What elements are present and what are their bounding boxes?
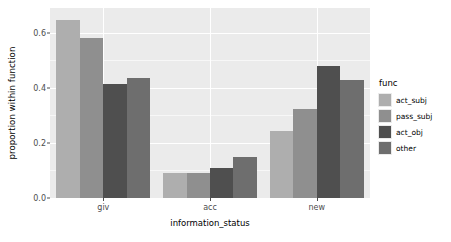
- x-tick-label-acc: acc: [203, 203, 217, 212]
- legend-title: func: [378, 78, 448, 88]
- bar-acc-pass_subj: [187, 173, 210, 198]
- legend: func act_subjpass_subjact_objother: [378, 78, 448, 156]
- legend-swatch-other: [378, 141, 392, 155]
- legend-item-other: other: [378, 140, 448, 156]
- legend-swatch-pass_subj: [378, 109, 392, 123]
- x-tick-mark: [210, 198, 211, 201]
- bar-giv-act_subj: [56, 20, 79, 198]
- legend-item-pass_subj: pass_subj: [378, 108, 448, 124]
- legend-swatch-act_subj: [378, 93, 392, 107]
- y-tick-label: 0.2: [33, 138, 46, 147]
- bar-new-act_obj: [317, 66, 340, 198]
- x-tick-mark: [103, 198, 104, 201]
- legend-swatch-act_obj: [378, 125, 392, 139]
- bar-giv-other: [127, 78, 150, 198]
- x-axis-ticks: givaccnew: [50, 198, 370, 218]
- x-axis-title: information_status: [50, 218, 370, 228]
- bar-acc-act_obj: [210, 168, 233, 198]
- legend-label-other: other: [396, 144, 416, 153]
- bar-new-act_subj: [270, 131, 293, 198]
- bar-giv-pass_subj: [80, 38, 103, 198]
- legend-label-pass_subj: pass_subj: [396, 112, 432, 121]
- bar-acc-other: [233, 157, 256, 198]
- y-tick-label: 0.4: [33, 83, 46, 92]
- y-tick-label: 0.0: [33, 194, 46, 203]
- legend-label-act_obj: act_obj: [396, 128, 423, 137]
- bar-new-other: [340, 80, 363, 198]
- bar-chart: proportion within function 0.00.20.40.6 …: [0, 0, 451, 242]
- bar-new-pass_subj: [293, 109, 316, 198]
- legend-label-act_subj: act_subj: [396, 96, 427, 105]
- x-tick-label-new: new: [308, 203, 325, 212]
- x-tick-label-giv: giv: [97, 203, 109, 212]
- bar-giv-act_obj: [103, 84, 126, 198]
- plot-panel: [50, 8, 370, 198]
- y-tick-label: 0.6: [33, 28, 46, 37]
- legend-item-act_obj: act_obj: [378, 124, 448, 140]
- bar-acc-act_subj: [163, 173, 186, 198]
- x-tick-mark: [317, 198, 318, 201]
- y-axis-ticks: 0.00.20.40.6: [0, 0, 50, 242]
- legend-item-act_subj: act_subj: [378, 92, 448, 108]
- legend-items: act_subjpass_subjact_objother: [378, 92, 448, 156]
